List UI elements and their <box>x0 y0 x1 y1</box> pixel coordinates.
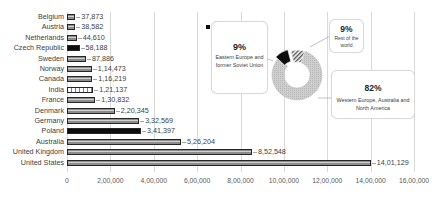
callout-pct: 82% <box>336 83 410 93</box>
callout-leader <box>310 36 330 47</box>
callout-desc: Rest of the world <box>330 35 363 49</box>
callout-western-europe: 82% Western Europe, Australia and North … <box>331 70 415 119</box>
callout-desc: Western Europe, Australia and North Amer… <box>336 96 410 112</box>
callout-desc: Eastern Europe and former Soviet Union <box>212 54 267 69</box>
callout-eastern-europe: 9% Eastern Europe and former Soviet Unio… <box>211 21 268 94</box>
callout-pct: 9% <box>212 42 267 52</box>
callout-rest-of-world: 9% Rest of the world <box>329 19 364 53</box>
callout-pct: 9% <box>330 24 363 34</box>
legend-marker <box>206 25 210 29</box>
